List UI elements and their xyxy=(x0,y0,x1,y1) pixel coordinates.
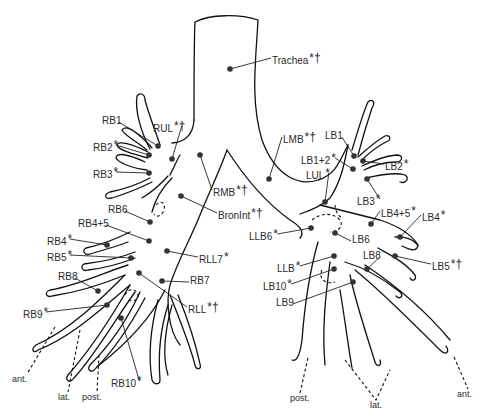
dot-rb4 xyxy=(104,242,110,248)
label-marks: * xyxy=(67,232,72,246)
dot-lb10 xyxy=(331,266,337,272)
label-lmb: LMB*† xyxy=(283,131,316,145)
direction-left-ant: ant. xyxy=(457,390,472,399)
label-lb9: LB9 xyxy=(276,298,294,308)
label-lb4p5: LB4+5* xyxy=(381,205,416,219)
label-text: LLB xyxy=(277,263,295,274)
bronchial-tree-diagram: Trachea*†RUL*†RB1RB2*RB3*RMB*†BronInt*†R… xyxy=(0,0,491,419)
leader-rll7 xyxy=(167,251,198,257)
label-rb1: RB1 xyxy=(102,116,121,126)
dot-rmb xyxy=(197,152,203,158)
label-marks: * xyxy=(224,250,229,264)
label-lb8: LB8 xyxy=(363,251,381,261)
label-marks: *† xyxy=(174,119,185,133)
label-marks: *† xyxy=(305,130,316,144)
direction-left-post: post. xyxy=(290,394,310,403)
label-text: LB10 xyxy=(263,281,286,292)
dot-bronint xyxy=(178,193,184,199)
label-text: LB1 xyxy=(325,130,343,141)
label-marks: * xyxy=(287,277,292,291)
leader-llb6 xyxy=(277,228,311,234)
dot-rul xyxy=(169,156,175,162)
label-rb5: RB5* xyxy=(47,249,72,263)
leader-rmb xyxy=(200,155,212,190)
dot-lb4 xyxy=(397,234,403,240)
label-marks: * xyxy=(376,192,381,206)
label-lul: LUL* xyxy=(306,167,330,181)
leader-rb10 xyxy=(121,318,139,381)
label-lb6: LB6 xyxy=(352,235,370,245)
label-rll: RLL*† xyxy=(188,301,219,315)
leader-rll xyxy=(139,273,187,307)
label-text: LB8 xyxy=(363,250,381,261)
label-text: RB9 xyxy=(23,309,42,320)
dot-rll7 xyxy=(164,248,170,254)
direction-right-post: post. xyxy=(82,393,102,402)
label-marks: * xyxy=(113,138,118,152)
dot-trachea xyxy=(227,66,233,72)
label-text: LB6 xyxy=(352,234,370,245)
direction-line-right-post xyxy=(97,355,99,392)
direction-right-lat: lat. xyxy=(58,393,70,402)
label-text: RB6 xyxy=(108,204,127,215)
label-marks: *† xyxy=(251,206,262,220)
label-marks: * xyxy=(113,165,118,179)
label-lb2: LB2* xyxy=(385,158,408,172)
leader-rb9 xyxy=(46,305,107,312)
dot-rb4p5 xyxy=(146,238,152,244)
direction-line-right-ant xyxy=(27,327,55,374)
label-bronint: BronInt*† xyxy=(218,207,263,221)
dot-lb9 xyxy=(350,279,356,285)
label-text: RB3 xyxy=(93,169,112,180)
dot-lb4p5 xyxy=(368,221,374,227)
label-lb10: LB10* xyxy=(263,278,292,292)
label-text: RLL7 xyxy=(199,254,223,265)
label-lb5: LB5*† xyxy=(432,258,462,272)
label-rb10: RB10* xyxy=(111,375,142,389)
dot-lb2 xyxy=(360,158,366,164)
direction-line-right-lat xyxy=(68,330,80,392)
label-llb6: LLB6* xyxy=(249,228,278,242)
dot-rb5 xyxy=(128,255,134,261)
leader-llb xyxy=(300,256,334,266)
dot-rb1 xyxy=(155,143,161,149)
label-text: RB5 xyxy=(47,252,66,263)
label-marks: * xyxy=(331,151,336,165)
leader-rb4 xyxy=(70,239,107,245)
label-marks: * xyxy=(137,374,142,388)
direction-line-left-post xyxy=(300,358,308,393)
dot-rb8 xyxy=(95,288,101,294)
label-text: LB3 xyxy=(357,196,375,207)
dot-lul xyxy=(322,199,328,205)
dot-rb10 xyxy=(118,315,124,321)
dot-lmb xyxy=(266,176,272,182)
label-rb6: RB6 xyxy=(108,205,127,215)
label-text: LMB xyxy=(283,134,304,145)
leader-rb3 xyxy=(116,172,149,173)
label-marks: *† xyxy=(309,51,320,65)
label-text: RMB xyxy=(213,187,235,198)
label-text: LB2 xyxy=(385,161,403,172)
label-text: RB7 xyxy=(190,275,209,286)
direction-line-left-ant xyxy=(454,357,468,389)
label-rb2: RB2* xyxy=(93,139,118,153)
dot-rb3 xyxy=(146,170,152,176)
label-lb1p2: LB1+2* xyxy=(301,152,336,166)
dot-lb8 xyxy=(364,266,370,272)
label-rb4p5: RB4+5 xyxy=(78,219,109,229)
leader-trachea xyxy=(230,58,271,69)
label-marks: * xyxy=(404,157,409,171)
dot-rb9 xyxy=(104,302,110,308)
label-text: RLL xyxy=(188,304,206,315)
label-text: RB4+5 xyxy=(78,218,109,229)
leader-rb6 xyxy=(125,211,150,222)
dot-lb1 xyxy=(351,153,357,159)
label-rul: RUL*† xyxy=(153,120,185,134)
label-marks: * xyxy=(441,208,446,222)
label-text: LB4+5 xyxy=(381,208,410,219)
label-lb1: LB1 xyxy=(325,131,343,141)
leader-rb4p5 xyxy=(106,225,149,241)
label-text: LB4 xyxy=(422,212,440,223)
label-marks: *† xyxy=(207,300,218,314)
label-text: Trachea xyxy=(272,55,308,66)
